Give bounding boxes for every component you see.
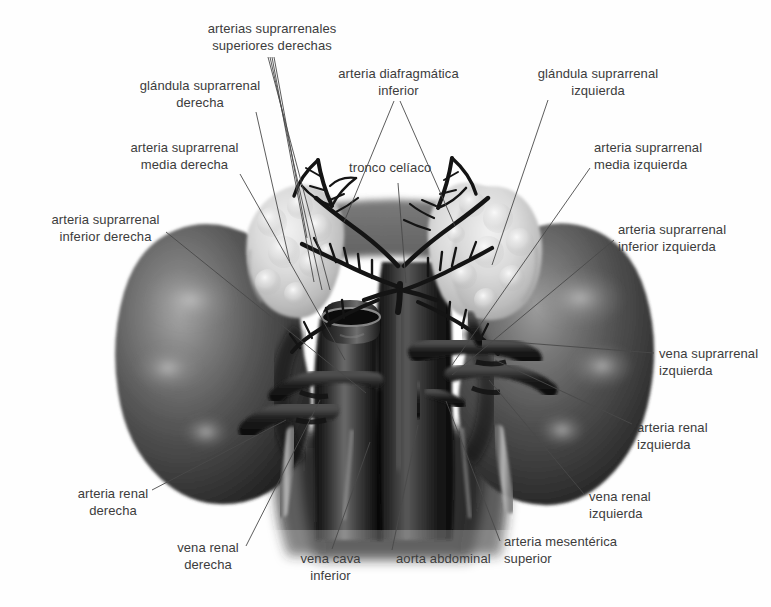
label-glandula-suprarrenal-izquierda-line-1: glándula suprarrenal bbox=[528, 66, 668, 83]
label-arteria-diafragmatica-inferior: arteria diafragmáticainferior bbox=[326, 66, 471, 99]
label-vena-renal-izquierda-line-1: vena renal bbox=[589, 489, 685, 506]
label-arteria-suprarrenal-inferior-izquierda-line-1: arteria suprarrenal bbox=[618, 222, 763, 239]
label-vena-renal-derecha-line-1: vena renal bbox=[160, 540, 256, 557]
label-arteria-suprarrenal-media-derecha: arteria suprarrenalmedia derecha bbox=[118, 140, 251, 173]
label-glandula-suprarrenal-izquierda: glándula suprarrenalizquierda bbox=[528, 66, 668, 99]
label-arteria-suprarrenal-inferior-derecha: arteria suprarrenalinferior derecha bbox=[38, 212, 173, 245]
label-vena-renal-izquierda-line-2: izquierda bbox=[589, 506, 685, 523]
grandes-vasos bbox=[314, 262, 454, 540]
label-aorta-abdominal-line-1: aorta abdominal bbox=[396, 551, 516, 568]
label-tronco-celiaco-line-1: tronco celíaco bbox=[349, 160, 449, 177]
label-arteria-suprarrenal-inferior-izquierda-line-2: inferior izquierda bbox=[618, 239, 763, 256]
label-arteria-mesenterica-superior-line-2: superior bbox=[504, 551, 639, 568]
label-glandula-suprarrenal-izquierda-line-2: izquierda bbox=[528, 83, 668, 100]
label-arteria-suprarrenal-inferior-izquierda: arteria suprarrenalinferior izquierda bbox=[618, 222, 763, 255]
label-arteria-suprarrenal-media-derecha-line-1: arteria suprarrenal bbox=[118, 140, 251, 157]
label-arteria-diafragmatica-inferior-line-2: inferior bbox=[326, 83, 471, 100]
label-arteria-suprarrenal-media-izquierda-line-2: media izquierda bbox=[594, 157, 734, 174]
label-arteria-mesenterica-superior: arteria mesentéricasuperior bbox=[504, 534, 639, 567]
label-arteria-suprarrenal-media-izquierda-line-1: arteria suprarrenal bbox=[594, 140, 734, 157]
label-arteria-renal-izquierda-line-2: izquierda bbox=[637, 437, 737, 454]
label-arterias-suprarrenales-superiores-derechas-line-1: arterias suprarrenales bbox=[196, 21, 348, 38]
label-arteria-renal-derecha-line-1: arteria renal bbox=[64, 486, 162, 503]
label-arteria-diafragmatica-inferior-line-1: arteria diafragmática bbox=[326, 66, 471, 83]
label-tronco-celiaco: tronco celíaco bbox=[349, 160, 449, 177]
anatomical-figure-page: arterias suprarrenalessuperiores derecha… bbox=[0, 0, 771, 607]
label-vena-suprarrenal-izquierda-line-2: izquierda bbox=[659, 363, 771, 380]
label-vena-renal-izquierda: vena renalizquierda bbox=[589, 489, 685, 522]
label-vena-cava-inferior-line-2: inferior bbox=[288, 568, 373, 585]
label-arteria-renal-derecha: arteria renalderecha bbox=[64, 486, 162, 519]
label-glandula-suprarrenal-derecha-line-1: glándula suprarrenal bbox=[130, 78, 270, 95]
label-arteria-suprarrenal-inferior-derecha-line-1: arteria suprarrenal bbox=[38, 212, 173, 229]
label-vena-cava-inferior-line-1: vena cava bbox=[288, 551, 373, 568]
label-arteria-renal-derecha-line-2: derecha bbox=[64, 503, 162, 520]
label-vena-cava-inferior: vena cavainferior bbox=[288, 551, 373, 584]
label-arterias-suprarrenales-superiores-derechas-line-2: superiores derechas bbox=[196, 38, 348, 55]
label-arteria-renal-izquierda-line-1: arteria renal bbox=[637, 420, 737, 437]
label-arteria-suprarrenal-inferior-derecha-line-2: inferior derecha bbox=[38, 229, 173, 246]
label-arteria-mesenterica-superior-line-1: arteria mesentérica bbox=[504, 534, 639, 551]
label-glandula-suprarrenal-derecha-line-2: derecha bbox=[130, 95, 270, 112]
label-vena-suprarrenal-izquierda-line-1: vena suprarrenal bbox=[659, 346, 771, 363]
label-arterias-suprarrenales-superiores-derechas: arterias suprarrenalessuperiores derecha… bbox=[196, 21, 348, 54]
surco-intervascular bbox=[376, 390, 382, 540]
label-arteria-suprarrenal-media-izquierda: arteria suprarrenalmedia izquierda bbox=[594, 140, 734, 173]
label-vena-renal-derecha: vena renalderecha bbox=[160, 540, 256, 573]
label-arteria-renal-izquierda: arteria renalizquierda bbox=[637, 420, 737, 453]
label-aorta-abdominal: aorta abdominal bbox=[396, 551, 516, 568]
label-vena-suprarrenal-izquierda: vena suprarrenalizquierda bbox=[659, 346, 771, 379]
label-arteria-suprarrenal-media-derecha-line-2: media derecha bbox=[118, 157, 251, 174]
label-vena-renal-derecha-line-2: derecha bbox=[160, 557, 256, 574]
label-glandula-suprarrenal-derecha: glándula suprarrenalderecha bbox=[130, 78, 270, 111]
